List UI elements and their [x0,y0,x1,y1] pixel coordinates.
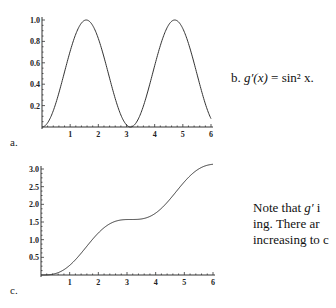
note-line-1-suffix: i [314,200,321,215]
y-tick-label: 0.8 [30,37,40,46]
y-tick-label: 1.5 [29,218,39,227]
x-tick-label: 4 [154,278,158,287]
x-tick-label: 6 [211,278,215,287]
note-line-1: Note that g′ i [253,200,329,216]
curve-a [42,20,211,127]
panel-label-a: a. [10,136,18,148]
chart-a: 1234560.20.40.60.81.0 [30,16,213,139]
formula-rhs: sin² x. [282,70,314,85]
x-tick-label: 2 [96,130,100,139]
x-tick-label: 1 [68,130,72,139]
x-tick-label: 3 [125,278,129,287]
x-tick-label: 2 [96,278,100,287]
chart-c: 1234560.51.01.52.02.53.0 [29,164,215,287]
caption-b: b. g′(x) = sin² x. [231,70,314,86]
y-tick-label: 2.0 [29,200,39,209]
x-tick-label: 6 [209,130,213,139]
y-tick-label: 0.4 [30,80,40,89]
panel-label-c: c. [10,284,18,296]
x-tick-label: 4 [153,130,157,139]
y-tick-label: 0.6 [30,59,40,68]
x-tick-label: 3 [125,130,129,139]
x-tick-label: 5 [181,130,185,139]
plots-canvas: 1234560.20.40.60.81.0 1234560.51.01.52.0… [0,0,336,308]
note-line-1-prefix: Note that [253,200,304,215]
y-tick-label: 3.0 [29,165,39,174]
curve-c [41,164,213,275]
note-line-3: increasing to c [253,232,329,248]
y-tick-label: 2.5 [29,183,39,192]
y-tick-label: 1.0 [29,236,39,245]
y-tick-label: 0.5 [29,253,39,262]
x-tick-label: 5 [182,278,186,287]
note-line-1-math: g′ [304,200,313,215]
formula-lhs: g′(x) [244,70,268,85]
panel-label-b: b. [231,70,241,85]
x-tick-label: 1 [68,278,72,287]
y-tick-label: 0.2 [30,102,40,111]
formula-eq: = [268,70,282,85]
note-line-2: ing. There ar [253,216,329,232]
note-text: Note that g′ i ing. There ar increasing … [253,200,329,248]
y-tick-label: 1.0 [30,16,40,25]
